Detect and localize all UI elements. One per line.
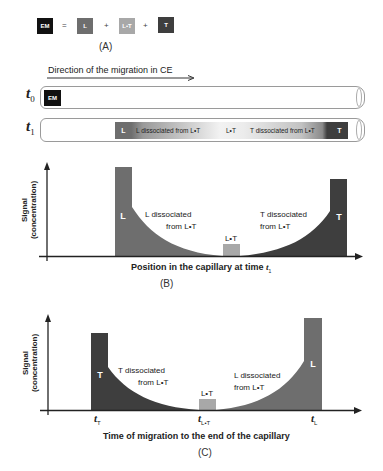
- y-axis-label: (concentration): [29, 181, 38, 240]
- y-axis-arrow-icon: [45, 314, 51, 322]
- l-dissociated-label: L dissociated: [145, 210, 191, 219]
- lt-peak: [223, 244, 240, 256]
- t-dissociated-label: T dissociated: [118, 366, 165, 375]
- t-zone: T: [331, 122, 348, 139]
- t-peak-label: T: [336, 212, 342, 222]
- l-peak-label: L: [310, 359, 316, 369]
- tick-t-LT: tL•T: [198, 412, 210, 426]
- t-dissociated-label: from L•T: [260, 222, 290, 231]
- t-dissociated-label: T dissociated: [260, 210, 307, 219]
- plus-sign: +: [104, 21, 109, 30]
- em-box: EM: [37, 18, 53, 34]
- lt-peak-label: L•T: [201, 389, 213, 398]
- equals-sign: =: [62, 21, 67, 30]
- tube-end: [356, 120, 362, 140]
- caption-b: (B): [160, 278, 173, 289]
- caption-c: (C): [198, 447, 212, 458]
- t-dissociated-zone: T dissociated from L•T: [250, 127, 315, 134]
- lt-peak-label: L•T: [225, 234, 237, 243]
- l-zone: L: [115, 122, 132, 139]
- y-axis-label: Signal: [21, 351, 30, 375]
- tick-t-L: tL: [311, 412, 317, 426]
- panel-b-plot: L T L•T L dissociated from L•T T dissoci…: [0, 150, 383, 300]
- x-axis-arrow-icon: [355, 253, 363, 260]
- y-axis-label: (concentration): [30, 334, 39, 393]
- em-zone: EM: [44, 90, 61, 106]
- lt-zone: L•T: [226, 127, 236, 134]
- caption-a: (A): [99, 41, 112, 52]
- t1-label: t1: [26, 118, 35, 137]
- t-box: T: [158, 17, 174, 33]
- direction-arrow-icon: [46, 74, 196, 82]
- t0-label: t0: [26, 85, 35, 104]
- x-axis-label-c: Time of migration to the end of the capi…: [103, 431, 290, 441]
- tube-end: [356, 88, 362, 107]
- l-dissociated-zone: L dissociated from L•T: [136, 127, 200, 134]
- y-axis-arrow-icon: [44, 162, 50, 170]
- tick-t-T: tT: [94, 412, 101, 426]
- lt-peak: [199, 399, 216, 410]
- y-axis-label: Signal: [20, 198, 29, 222]
- l-dissociated-label: from L•T: [234, 383, 264, 392]
- x-axis-label-b: Position in the capillary at time t1: [131, 262, 271, 274]
- capillary-tube-t1: L L dissociated from L•T L•T T dissociat…: [40, 118, 365, 142]
- plus-sign: +: [143, 21, 148, 30]
- t-peak-label: T: [97, 370, 103, 380]
- l-box: L: [77, 18, 93, 34]
- panel-c-plot: T L L•T T dissociated from L•T L dissoci…: [0, 305, 383, 415]
- l-peak: [216, 318, 322, 410]
- l-dissociated-label: from L•T: [166, 222, 196, 231]
- l-dissociated-label: L dissociated: [234, 371, 280, 380]
- lt-box: L•T: [119, 18, 135, 34]
- l-peak-label: L: [120, 211, 126, 221]
- capillary-tube-t0: EM: [40, 86, 365, 109]
- t-dissociated-label: from L•T: [138, 378, 168, 387]
- x-axis-arrow-icon: [354, 407, 362, 414]
